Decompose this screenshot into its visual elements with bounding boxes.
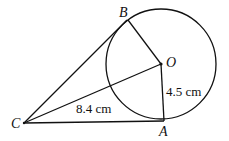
label-o: O [166, 55, 176, 70]
geometry-diagram: B O C A 4.5 cm 8.4 cm [0, 0, 229, 141]
radius-oa [161, 64, 164, 121]
point-c-dot [23, 122, 25, 124]
centre-point [159, 62, 162, 65]
tangent-ca [24, 121, 164, 123]
label-c: C [11, 116, 21, 131]
label-a: A [158, 124, 168, 139]
radius-ob [128, 20, 161, 64]
length-co: 8.4 cm [76, 101, 111, 116]
length-oa: 4.5 cm [166, 84, 201, 99]
label-b: B [119, 5, 128, 20]
